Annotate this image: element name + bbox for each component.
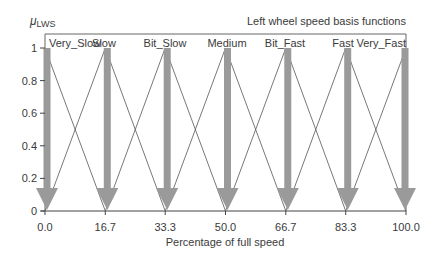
x-tick-label: 50.0 xyxy=(215,221,236,233)
y-tick-label: 0.8 xyxy=(22,75,37,87)
y-tick-label: 0.2 xyxy=(22,172,37,184)
x-tick-label: 83.3 xyxy=(335,221,356,233)
x-axis-label: Percentage of full speed xyxy=(166,236,285,248)
series-label: Very_Fast xyxy=(356,37,406,49)
series-label: Bit_Slow xyxy=(144,37,187,49)
x-tick-label: 33.3 xyxy=(155,221,176,233)
x-tick-label: 100.0 xyxy=(392,221,420,233)
y-tick-label: 0.4 xyxy=(22,140,37,152)
series-label: Slow xyxy=(92,37,116,49)
y-tick-label: 0 xyxy=(31,205,37,217)
chart: 00.20.40.60.810.016.733.350.066.783.3100… xyxy=(0,0,435,259)
x-tick-label: 66.7 xyxy=(275,221,296,233)
y-tick-label: 0.6 xyxy=(22,107,37,119)
chart-title: Left wheel speed basis functions xyxy=(247,15,406,27)
y-axis-label: μLWS xyxy=(29,14,55,29)
x-tick-label: 0.0 xyxy=(37,221,52,233)
y-tick-label: 1 xyxy=(31,42,37,54)
series-label: Bit_Fast xyxy=(265,37,305,49)
series-label: Medium xyxy=(207,37,246,49)
series-label: Fast xyxy=(332,37,353,49)
x-tick-label: 16.7 xyxy=(95,221,116,233)
